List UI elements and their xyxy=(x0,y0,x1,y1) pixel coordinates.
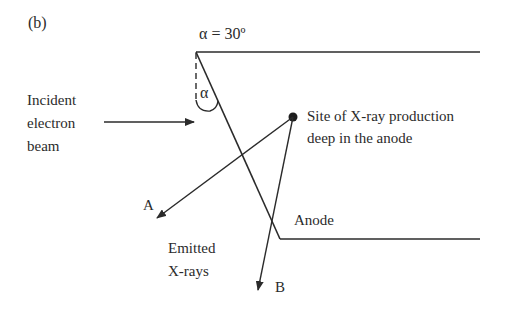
angle-value-label: α = 30º xyxy=(199,24,245,44)
site-line2: deep in the anode xyxy=(307,128,454,148)
anode-target-face xyxy=(196,52,280,239)
anode-label: Anode xyxy=(294,210,334,230)
incident-line1: Incident xyxy=(27,90,76,110)
incident-beam-label: Incident electron beam xyxy=(27,90,76,156)
panel-label: (b) xyxy=(28,13,47,33)
production-site-label: Site of X-ray production deep in the ano… xyxy=(307,106,454,148)
incident-line3: beam xyxy=(27,136,76,156)
site-line1: Site of X-ray production xyxy=(307,106,454,126)
emitted-line2: X-rays xyxy=(168,261,216,281)
xray-ray-a-arrow xyxy=(157,117,293,218)
emitted-line1: Emitted xyxy=(168,238,216,258)
emitted-xrays-label: Emitted X-rays xyxy=(168,238,216,281)
incident-line2: electron xyxy=(27,113,76,133)
ray-a-label: A xyxy=(143,195,154,215)
ray-b-label: B xyxy=(275,277,285,297)
angle-symbol-label: α xyxy=(200,83,208,103)
diagram-canvas xyxy=(0,0,527,309)
